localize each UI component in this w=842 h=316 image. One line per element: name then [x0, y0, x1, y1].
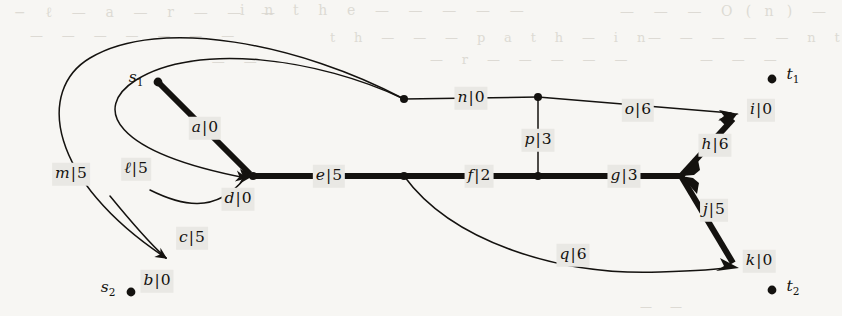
edge-capacity: 0 — [475, 88, 485, 106]
graph-node-dot — [400, 95, 408, 103]
edge-name: a — [192, 118, 201, 136]
edge-path-l — [115, 58, 404, 178]
edge-capacity: 0 — [161, 271, 171, 289]
edge-label-l: ℓ|5 — [121, 158, 151, 181]
graph-node-dot — [154, 78, 163, 87]
edge-name: n — [457, 88, 467, 106]
edge-capacity: 2 — [481, 166, 491, 184]
edge-capacity: 0 — [762, 100, 772, 118]
edge-label-i: i|0 — [747, 99, 775, 122]
edge-label-f: f|2 — [465, 165, 494, 188]
edge-name: q — [559, 245, 569, 263]
graph-node-dot — [127, 288, 136, 297]
edge-label-separator: | — [755, 251, 762, 269]
edge-capacity: 5 — [195, 228, 205, 246]
edge-name: h — [701, 135, 711, 153]
edge-label-a: a|0 — [189, 117, 221, 140]
node-label-t2: t2 — [787, 279, 800, 297]
edge-capacity: 6 — [577, 245, 587, 263]
edge-label-h: h|6 — [698, 134, 731, 157]
graph-node-dot — [249, 172, 257, 180]
edge-label-n: n|0 — [454, 87, 487, 110]
node-label-letter: s — [101, 278, 109, 296]
edge-capacity: 0 — [242, 189, 252, 207]
edge-label-j: j|5 — [700, 199, 728, 222]
node-label-s2: s2 — [101, 280, 116, 298]
edge-name: d — [224, 189, 234, 207]
edge-label-o: o|6 — [622, 99, 654, 122]
edge-label-g: g|3 — [607, 165, 640, 188]
edge-name: p — [524, 130, 534, 148]
edge-name: e — [316, 166, 325, 184]
edge-label-p: p|3 — [521, 129, 554, 152]
edge-label-separator: | — [634, 100, 641, 118]
arrowhead-j — [716, 258, 739, 271]
node-label-subscript: 2 — [109, 286, 116, 298]
graph-node-dot — [534, 93, 542, 101]
edge-name: b — [143, 271, 153, 289]
edge-path-b — [110, 196, 166, 258]
edge-label-separator: | — [708, 200, 715, 218]
edge-capacity: 5 — [715, 200, 725, 218]
edge-capacity: 5 — [77, 164, 87, 182]
edge-name: g — [610, 166, 620, 184]
edge-label-b: b|0 — [140, 270, 173, 293]
edge-name: o — [625, 100, 634, 118]
edge-label-separator: | — [131, 159, 138, 177]
edge-capacity: 5 — [332, 166, 342, 184]
edge-label-d: d|0 — [221, 188, 254, 211]
edge-label-k: k|0 — [743, 250, 776, 273]
edge-capacity: 3 — [542, 130, 552, 148]
node-label-s1: s1 — [129, 70, 144, 88]
edge-capacity: 0 — [762, 251, 772, 269]
graph-node-dot — [534, 172, 542, 180]
node-label-letter: s — [129, 68, 137, 86]
edge-capacity: 3 — [628, 166, 638, 184]
edge-label-separator: | — [188, 228, 195, 246]
edge-name: f — [468, 166, 474, 184]
node-label-subscript: 1 — [793, 73, 800, 85]
edge-label-separator: | — [473, 166, 480, 184]
edge-label-m: m|5 — [52, 163, 90, 186]
edge-name: k — [746, 251, 755, 269]
graph-node-dot — [768, 75, 777, 84]
graph-node-dot — [400, 172, 408, 180]
node-label-subscript: 1 — [137, 76, 144, 88]
edge-label-separator: | — [70, 164, 77, 182]
thin-edge-group — [59, 38, 742, 273]
edge-name: c — [179, 228, 188, 246]
edge-capacity: 6 — [641, 100, 651, 118]
edge-capacity: 5 — [138, 159, 148, 177]
node-label-t1: t1 — [787, 67, 800, 85]
edge-path-m — [59, 38, 404, 258]
node-dot-group — [127, 75, 777, 297]
node-label-subscript: 2 — [793, 285, 800, 297]
edge-label-c: c|5 — [176, 227, 208, 250]
edge-capacity: 6 — [719, 135, 729, 153]
edge-label-q: q|6 — [556, 244, 589, 267]
arrowhead-group — [239, 110, 739, 271]
edge-label-e: e|5 — [313, 165, 345, 188]
edge-capacity: 0 — [208, 118, 218, 136]
graph-node-dot — [768, 286, 777, 295]
edge-name: m — [55, 164, 70, 182]
